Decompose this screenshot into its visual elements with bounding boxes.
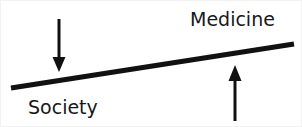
- arrow-up-icon: [229, 65, 242, 121]
- label-medicine: Medicine: [190, 10, 275, 29]
- balance-beam: [11, 44, 294, 88]
- seesaw-diagram: Medicine Society: [0, 0, 302, 127]
- arrow-down-head: [53, 57, 66, 72]
- arrow-up-head: [229, 65, 242, 81]
- label-society: Society: [28, 98, 98, 117]
- arrow-down-icon: [53, 19, 66, 72]
